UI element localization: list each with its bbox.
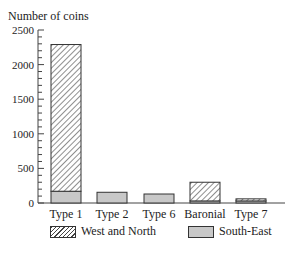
bar-south-east bbox=[144, 194, 174, 203]
legend-label: South-East bbox=[219, 224, 272, 239]
y-tick-label: 2000 bbox=[12, 59, 35, 71]
grey-swatch-icon bbox=[188, 226, 214, 238]
x-tick-label: Baronial bbox=[184, 207, 226, 221]
stacked-bar-chart: Number of coins05001000150020002500Type … bbox=[0, 0, 293, 222]
legend-item-south-east: South-East bbox=[188, 224, 272, 239]
bar-south-east bbox=[97, 192, 127, 203]
x-tick-label: Type 2 bbox=[96, 207, 129, 221]
x-tick-label: Type 7 bbox=[235, 207, 268, 221]
x-tick-label: Type 6 bbox=[143, 207, 176, 221]
y-tick-label: 1500 bbox=[12, 93, 35, 105]
legend-label: West and North bbox=[81, 224, 156, 239]
y-tick-label: 500 bbox=[18, 162, 35, 174]
legend: West and North South-East bbox=[0, 224, 293, 244]
y-axis-label: Number of coins bbox=[8, 9, 89, 23]
bar-west-north bbox=[51, 45, 81, 192]
y-tick-label: 1000 bbox=[12, 128, 35, 140]
hatched-swatch-icon bbox=[50, 226, 76, 238]
bar-west-north bbox=[236, 199, 266, 201]
bar-west-north bbox=[190, 182, 220, 201]
y-tick-label: 0 bbox=[29, 197, 35, 209]
x-tick-label: Type 1 bbox=[50, 207, 83, 221]
y-tick-label: 2500 bbox=[12, 24, 35, 36]
bar-south-east bbox=[51, 191, 81, 203]
legend-item-west-north: West and North bbox=[50, 224, 156, 239]
